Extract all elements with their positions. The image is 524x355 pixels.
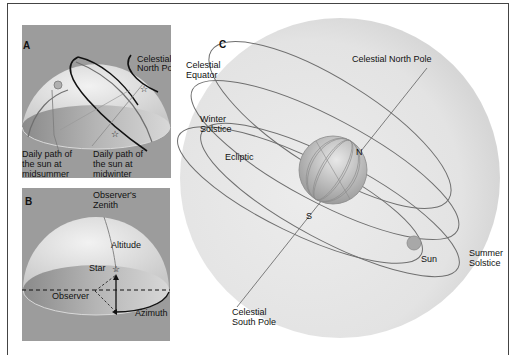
label-north: N <box>356 147 363 157</box>
label-midwinter-path-2: the sun at <box>93 159 133 169</box>
panel-b-letter: B <box>25 196 32 207</box>
label-celestial-equator: Celestial <box>186 60 221 70</box>
label-midsummer-path-3: midsummer <box>22 169 69 179</box>
star-icon: ☆ <box>140 84 148 94</box>
panel-c-letter: C <box>219 39 226 50</box>
label-celestial-south-pole: Celestial <box>232 307 267 317</box>
panel-a-letter: A <box>23 40 30 51</box>
label-observers-zenith: Observer's <box>93 190 137 200</box>
label-ecliptic: Ecliptic <box>225 152 254 162</box>
label-celestial-equator-2: Equator <box>186 70 218 80</box>
sun-icon <box>407 236 421 250</box>
panel-b: ☆ B Observer's Zenith Altitude Star Obse… <box>22 188 170 341</box>
label-summer-solstice: Summer <box>469 248 503 258</box>
label-summer-solstice-2: Solstice <box>469 258 501 268</box>
label-celestial-south-pole-2: South Pole <box>232 317 276 327</box>
label-celestial-north-pole-a-2: North Pole <box>137 63 180 73</box>
label-south: S <box>306 211 312 221</box>
label-altitude: Altitude <box>111 240 141 250</box>
panel-c: C Celestial Equator Celestial North Pole… <box>162 13 503 338</box>
label-midsummer-path: Daily path of <box>22 149 73 159</box>
panel-a: ☆ ☆ A Celestial North Pole Daily path of… <box>22 25 180 179</box>
label-winter-solstice: Winter <box>200 114 226 124</box>
star-icon: ☆ <box>112 264 120 274</box>
label-star: Star <box>89 263 106 273</box>
sun-icon <box>54 81 62 89</box>
label-sun: Sun <box>421 254 437 264</box>
label-midsummer-path-2: the sun at <box>22 159 62 169</box>
label-azimuth: Azimuth <box>135 308 168 318</box>
label-observers-zenith-2: Zenith <box>93 200 118 210</box>
label-observer: Observer <box>52 291 89 301</box>
label-midwinter-path: Daily path of <box>93 149 144 159</box>
label-celestial-north-pole-c: Celestial North Pole <box>352 54 432 64</box>
label-midwinter-path-3: midwinter <box>93 169 132 179</box>
label-winter-solstice-2: Solstice <box>200 124 232 134</box>
star-icon: ☆ <box>111 129 119 139</box>
